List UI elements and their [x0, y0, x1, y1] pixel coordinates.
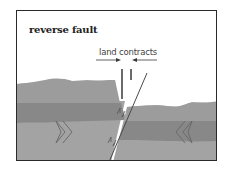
footwall-block	[113, 101, 217, 161]
diagram-frame: reverse fault land contracts	[16, 10, 217, 161]
inward-arrows-icon	[96, 58, 157, 62]
hanging-wall-block	[17, 79, 126, 161]
land-contracts-label: land contracts	[99, 47, 157, 57]
diagram-title: reverse fault	[29, 24, 97, 35]
